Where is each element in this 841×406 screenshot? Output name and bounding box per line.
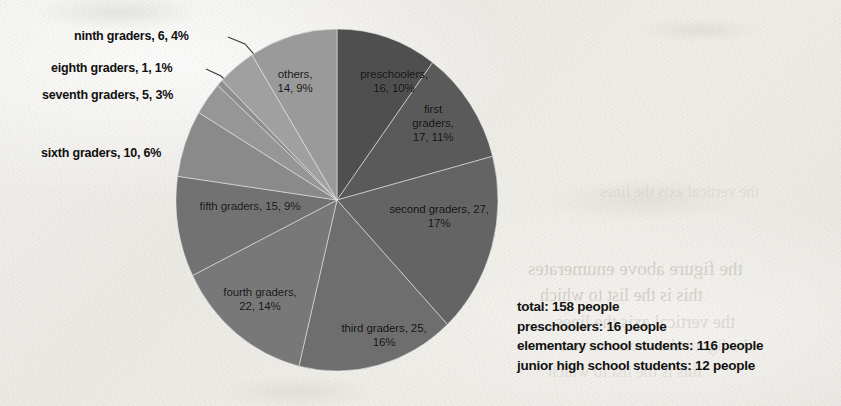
summary-elementary: elementary school students: 116 people	[517, 336, 763, 356]
summary-junior-high: junior high school students: 12 people	[517, 356, 763, 376]
callout-ninth-graders: ninth graders, 6, 4%	[74, 29, 189, 43]
pie-slice-group	[176, 29, 498, 371]
callout-eighth-graders: eighth graders, 1, 1%	[51, 61, 173, 75]
summary-total: total: 158 people	[517, 297, 763, 317]
callout-seventh-graders: seventh graders, 5, 3%	[42, 88, 173, 102]
callout-sixth-graders: sixth graders, 10, 6%	[41, 146, 161, 160]
pie-chart: preschoolers, 16, 10% first graders, 17,…	[176, 29, 498, 371]
pie-chart-svg	[176, 29, 498, 371]
summary-preschoolers: preschoolers: 16 people	[517, 317, 763, 337]
summary-block: total: 158 people preschoolers: 16 peopl…	[517, 297, 763, 375]
